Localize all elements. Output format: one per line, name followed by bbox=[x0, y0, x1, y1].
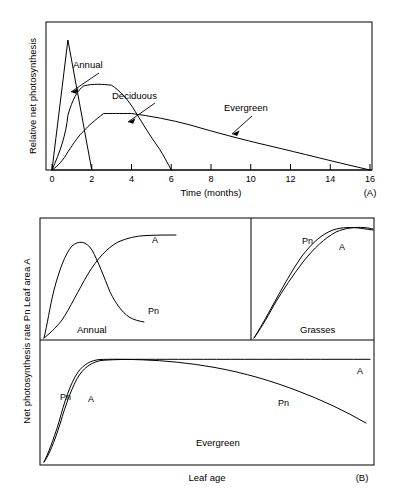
series-label-evergreen-pn-left: Pn bbox=[60, 392, 71, 402]
tick-label: 12 bbox=[285, 174, 295, 184]
panel-b-ylabel: Net photosynthesis rate Pn Leaf area A bbox=[21, 258, 32, 424]
tick-label: 6 bbox=[169, 174, 174, 184]
subpanel-evergreen: A Pn A Pn Evergreen bbox=[44, 359, 370, 462]
figure-svg: Relative net photosynthesis 0 2 4 6 bbox=[0, 0, 398, 504]
curve-grasses-a bbox=[254, 227, 373, 338]
tick-label: 2 bbox=[89, 174, 94, 184]
subpanel-annual: A Pn Annual bbox=[44, 235, 176, 338]
panel-b-xlabel: Leaf age bbox=[189, 472, 226, 483]
series-label-annual-pn: Pn bbox=[148, 306, 159, 316]
series-label-evergreen-pn-right: Pn bbox=[278, 398, 289, 408]
series-label-evergreen-a: A bbox=[357, 366, 363, 376]
annotation-evergreen-label: Evergreen bbox=[224, 102, 268, 113]
series-label-grasses-a: A bbox=[339, 242, 345, 252]
series-label-grasses-pn: Pn bbox=[302, 236, 313, 246]
annotation-deciduous-label: Deciduous bbox=[112, 90, 157, 101]
panel-a-xlabel: Time (months) bbox=[181, 187, 242, 198]
panel-a-ylabel: Relative net photosynthesis bbox=[27, 38, 38, 154]
panel-a-tick-labels: 0 2 4 6 8 10 12 14 16 bbox=[49, 174, 375, 184]
tick-label: 14 bbox=[325, 174, 335, 184]
series-label-evergreen-a-left: A bbox=[88, 394, 94, 404]
panel-b-frame bbox=[40, 218, 374, 465]
figure-container: Relative net photosynthesis 0 2 4 6 bbox=[0, 0, 398, 504]
panel-a-frame bbox=[46, 22, 372, 170]
panel-a-tag: (A) bbox=[364, 187, 377, 198]
subpanel-title-grasses: Grasses bbox=[300, 324, 336, 335]
tick-label: 8 bbox=[208, 174, 213, 184]
panel-b: Net photosynthesis rate Pn Leaf area A L… bbox=[21, 218, 374, 483]
panel-a-ticks bbox=[52, 164, 370, 170]
curve-evergreen bbox=[52, 114, 370, 171]
panel-b-tag: (B) bbox=[356, 472, 369, 483]
curve-annual-a bbox=[44, 235, 176, 338]
tick-label: 16 bbox=[365, 174, 375, 184]
annotation-annual-label: Annual bbox=[73, 59, 103, 70]
panel-a: Relative net photosynthesis 0 2 4 6 bbox=[27, 22, 376, 198]
subpanel-title-annual: Annual bbox=[77, 324, 107, 335]
tick-label: 4 bbox=[129, 174, 134, 184]
tick-label: 0 bbox=[49, 174, 54, 184]
subpanel-title-evergreen: Evergreen bbox=[196, 437, 240, 448]
series-label-annual-a: A bbox=[152, 235, 158, 245]
subpanel-grasses: Pn A Grasses bbox=[254, 227, 373, 338]
curve-grasses-pn bbox=[254, 228, 373, 338]
annotation-evergreen-leader bbox=[232, 116, 252, 134]
tick-label: 10 bbox=[246, 174, 256, 184]
